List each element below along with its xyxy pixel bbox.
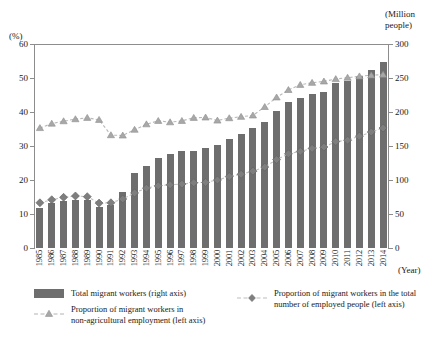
diamond-marker-icon (202, 178, 210, 186)
legend-item-nonagricultural-share: Proportion of migrant workers in non-agr… (34, 304, 205, 325)
diamond-marker-icon (154, 182, 162, 190)
diamond-marker-icon (71, 192, 79, 200)
triangle-marker-icon (297, 81, 304, 87)
left-axis-tick-label: 50 (4, 74, 28, 83)
diamond-marker-icon (95, 199, 103, 207)
diamond-marker-icon (355, 132, 363, 140)
diamond-marker-icon (36, 199, 44, 207)
legend-label-employed-share: Proportion of migrant workers in the tot… (274, 288, 416, 309)
x-axis-year-label: 1987 (59, 250, 68, 266)
left-axis-tick-label: 60 (4, 40, 28, 49)
right-axis-tick (389, 78, 393, 79)
triangle-marker-icon (155, 117, 162, 123)
triangle-marker-icon (285, 87, 292, 93)
series-line (40, 75, 383, 136)
triangle-marker-icon (48, 120, 55, 126)
triangle-marker-icon (379, 71, 386, 77)
right-axis-tick-label: 100 (395, 176, 421, 185)
right-axis-tick (389, 146, 393, 147)
diamond-marker-icon (225, 173, 233, 181)
legend-label-nonagricultural-line1: Proportion of migrant workers in (71, 304, 183, 314)
right-axis-tick (389, 112, 393, 113)
diamond-marker-icon (190, 179, 198, 187)
right-axis-tick (389, 248, 393, 249)
legend-label-total-migrant-workers: Total migrant workers (right axis) (71, 288, 186, 299)
legend-label-nonagricultural-share: Proportion of migrant workers in non-agr… (71, 304, 205, 325)
diamond-marker-icon (166, 181, 174, 189)
diamond-marker-icon (48, 196, 56, 204)
legend-label-employed-line1: Proportion of migrant workers in the tot… (274, 288, 416, 298)
right-axis-tick-label: 50 (395, 210, 421, 219)
line-series-svg (34, 44, 389, 249)
diamond-marker-icon (261, 163, 269, 171)
diamond-marker-icon (367, 128, 375, 136)
x-axis-year-label: 2007 (296, 250, 305, 266)
x-axis-year-label: 2011 (343, 250, 352, 266)
legend-label-employed-line2: number of employed people (left axis) (274, 299, 405, 309)
right-axis-tick (389, 44, 393, 45)
right-axis-unit-line1: (Million (385, 9, 415, 20)
triangle-marker-icon (332, 76, 339, 82)
diamond-marker-icon (344, 136, 352, 144)
triangle-marker-icon (249, 112, 256, 118)
diamond-marker-icon (60, 193, 68, 201)
triangle-marker-icon (368, 72, 375, 78)
legend-bar-swatch-icon (34, 289, 64, 298)
right-axis-tick-label: 300 (395, 40, 421, 49)
right-axis-tick-label: 250 (395, 74, 421, 83)
x-axis-year-label: 1994 (142, 250, 151, 266)
x-axis-year-label: 1998 (189, 250, 198, 266)
left-axis-tick-label: 30 (4, 142, 28, 151)
diamond-marker-icon (178, 180, 186, 188)
triangle-marker-icon (107, 132, 114, 138)
diamond-marker-icon (213, 176, 221, 184)
x-axis-year-label: 2013 (367, 250, 376, 266)
x-axis-year-label: 2014 (379, 250, 388, 266)
x-axis-year-label: 2010 (331, 250, 340, 266)
diamond-marker-icon (131, 189, 139, 197)
diamond-marker-icon (119, 195, 127, 203)
x-axis-year-label: 1995 (154, 250, 163, 266)
x-axis-year-label: 2012 (355, 250, 364, 266)
x-axis-year-label: 1991 (106, 250, 115, 266)
x-axis-year-label: 2004 (260, 250, 269, 266)
x-axis-year-label: 2002 (237, 250, 246, 266)
triangle-marker-icon (131, 126, 138, 132)
diamond-marker-icon (296, 147, 304, 155)
x-axis-year-label: 2009 (319, 250, 328, 266)
triangle-marker-icon (84, 114, 91, 120)
diamond-marker-icon (83, 193, 91, 201)
chart-root: (%) (Million people) 0102030405060 05010… (0, 0, 444, 339)
x-axis-year-label: 2005 (272, 250, 281, 266)
right-axis-unit-label: (Million people) (385, 9, 415, 30)
right-axis-tick (389, 180, 393, 181)
legend-item-employed-share: Proportion of migrant workers in the tot… (237, 288, 416, 309)
x-axis-year-label: 2006 (284, 250, 293, 266)
diamond-marker-icon (308, 144, 316, 152)
x-axis-year-label: 1989 (83, 250, 92, 266)
right-axis-tick-label: 0 (395, 244, 421, 253)
x-axis-caption: (Year) (398, 265, 421, 275)
legend-diamond-marker-icon (237, 289, 267, 299)
right-axis-tick-label: 200 (395, 108, 421, 117)
diamond-marker-icon (249, 167, 257, 175)
legend-triangle-marker-icon (34, 305, 64, 315)
diamond-marker-icon (379, 124, 387, 132)
x-axis-year-label: 1985 (35, 250, 44, 266)
x-axis-year-label: 2001 (225, 250, 234, 266)
x-axis-year-label: 1986 (47, 250, 56, 266)
left-axis-tick-label: 40 (4, 108, 28, 117)
diamond-marker-icon (332, 138, 340, 146)
diamond-marker-icon (320, 143, 328, 151)
x-axis-year-label: 1999 (201, 250, 210, 266)
diamond-marker-icon (142, 184, 150, 192)
x-axis-year-label: 1992 (118, 250, 127, 266)
triangle-marker-icon (166, 119, 173, 125)
left-axis-tick-label: 20 (4, 176, 28, 185)
left-axis-tick-label: 10 (4, 210, 28, 219)
x-axis-year-label: 1990 (95, 250, 104, 266)
right-axis-tick (389, 214, 393, 215)
right-axis-tick-label: 150 (395, 142, 421, 151)
diamond-marker-icon (237, 170, 245, 178)
legend-item-total-migrant-workers: Total migrant workers (right axis) (34, 288, 186, 299)
